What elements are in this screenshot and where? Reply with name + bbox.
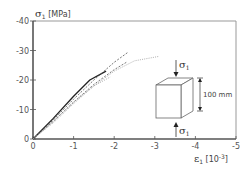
dimension-label: 100 mm xyxy=(203,91,232,99)
y-tick-label: -20 xyxy=(16,76,29,85)
x-tick-label: -2 xyxy=(110,142,118,151)
sigma-bottom-label: σ1 xyxy=(179,125,190,137)
cube-specimen-icon xyxy=(156,78,193,118)
y-tick-label: 0 xyxy=(24,135,29,144)
load-arrow-top-icon xyxy=(174,60,179,77)
load-arrow-bottom-icon xyxy=(174,122,179,137)
x-tick-label: -5 xyxy=(232,142,240,151)
series-dotted-2 xyxy=(33,77,110,139)
x-tick-label: 0 xyxy=(30,142,35,151)
x-tick-label: -4 xyxy=(191,142,199,151)
x-tick-label: -1 xyxy=(70,142,78,151)
series-dotted-light xyxy=(33,56,159,139)
x-tick-label: -3 xyxy=(151,142,159,151)
data-series xyxy=(33,52,159,139)
sigma-top-label: σ1 xyxy=(179,59,190,71)
y-tick-label: -30 xyxy=(16,47,29,56)
y-tick-label: -40 xyxy=(16,17,29,26)
y-axis-title: σ1 [MPa] xyxy=(35,8,71,20)
y-tick-label: -10 xyxy=(16,106,29,115)
x-axis-title: ε1 [10-3] xyxy=(194,153,228,165)
stress-strain-chart: 0-10-20-30-40 0-1-2-3-4-5 σ1 [MPa] ε1 [1… xyxy=(0,0,248,173)
